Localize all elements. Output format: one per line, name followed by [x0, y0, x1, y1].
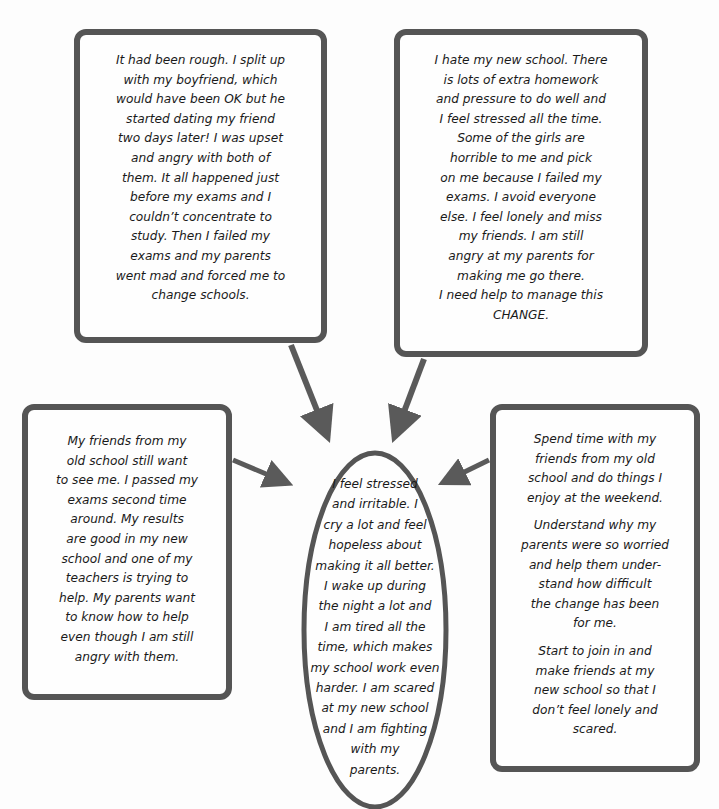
box-goals: Spend time with my friends from my old s… — [490, 404, 700, 772]
box-current-problems-text: I hate my new school. There is lots of e… — [435, 51, 608, 325]
box-causes: It had been rough. I split up with my bo… — [74, 29, 327, 343]
goal-paragraph: Spend time with my friends from my old s… — [527, 430, 663, 508]
goal-paragraph: Start to join in and make friends at my … — [532, 642, 657, 740]
arrow-left — [233, 460, 285, 482]
box-current-problems: I hate my new school. There is lots of e… — [394, 29, 648, 357]
goal-paragraph: Understand why my parents were so worrie… — [521, 516, 669, 634]
box-positives: My friends from my old school still want… — [22, 404, 232, 700]
arrow-top-right — [396, 359, 424, 433]
box-positives-text: My friends from my old school still want… — [56, 432, 198, 667]
center-feelings-text: I feel stressed and irritable. I cry a l… — [305, 474, 445, 780]
arrow-top-left — [291, 345, 326, 433]
arrow-right — [446, 460, 489, 481]
box-causes-text: It had been rough. I split up with my bo… — [116, 51, 286, 306]
